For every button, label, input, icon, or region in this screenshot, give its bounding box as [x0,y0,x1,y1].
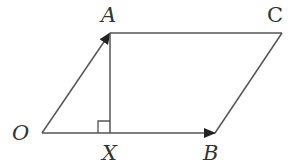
edge-BC [215,33,282,133]
label-A: A [99,3,116,27]
label-B: B [202,141,218,164]
edge-OA-vector [42,33,110,133]
label-O: O [12,121,29,145]
parallelogram-diagram: A C O X B [0,0,308,164]
diagram-svg: A C O X B [0,0,308,164]
label-C: C [267,3,283,27]
label-X: X [100,141,118,164]
right-angle-marker [98,121,110,133]
